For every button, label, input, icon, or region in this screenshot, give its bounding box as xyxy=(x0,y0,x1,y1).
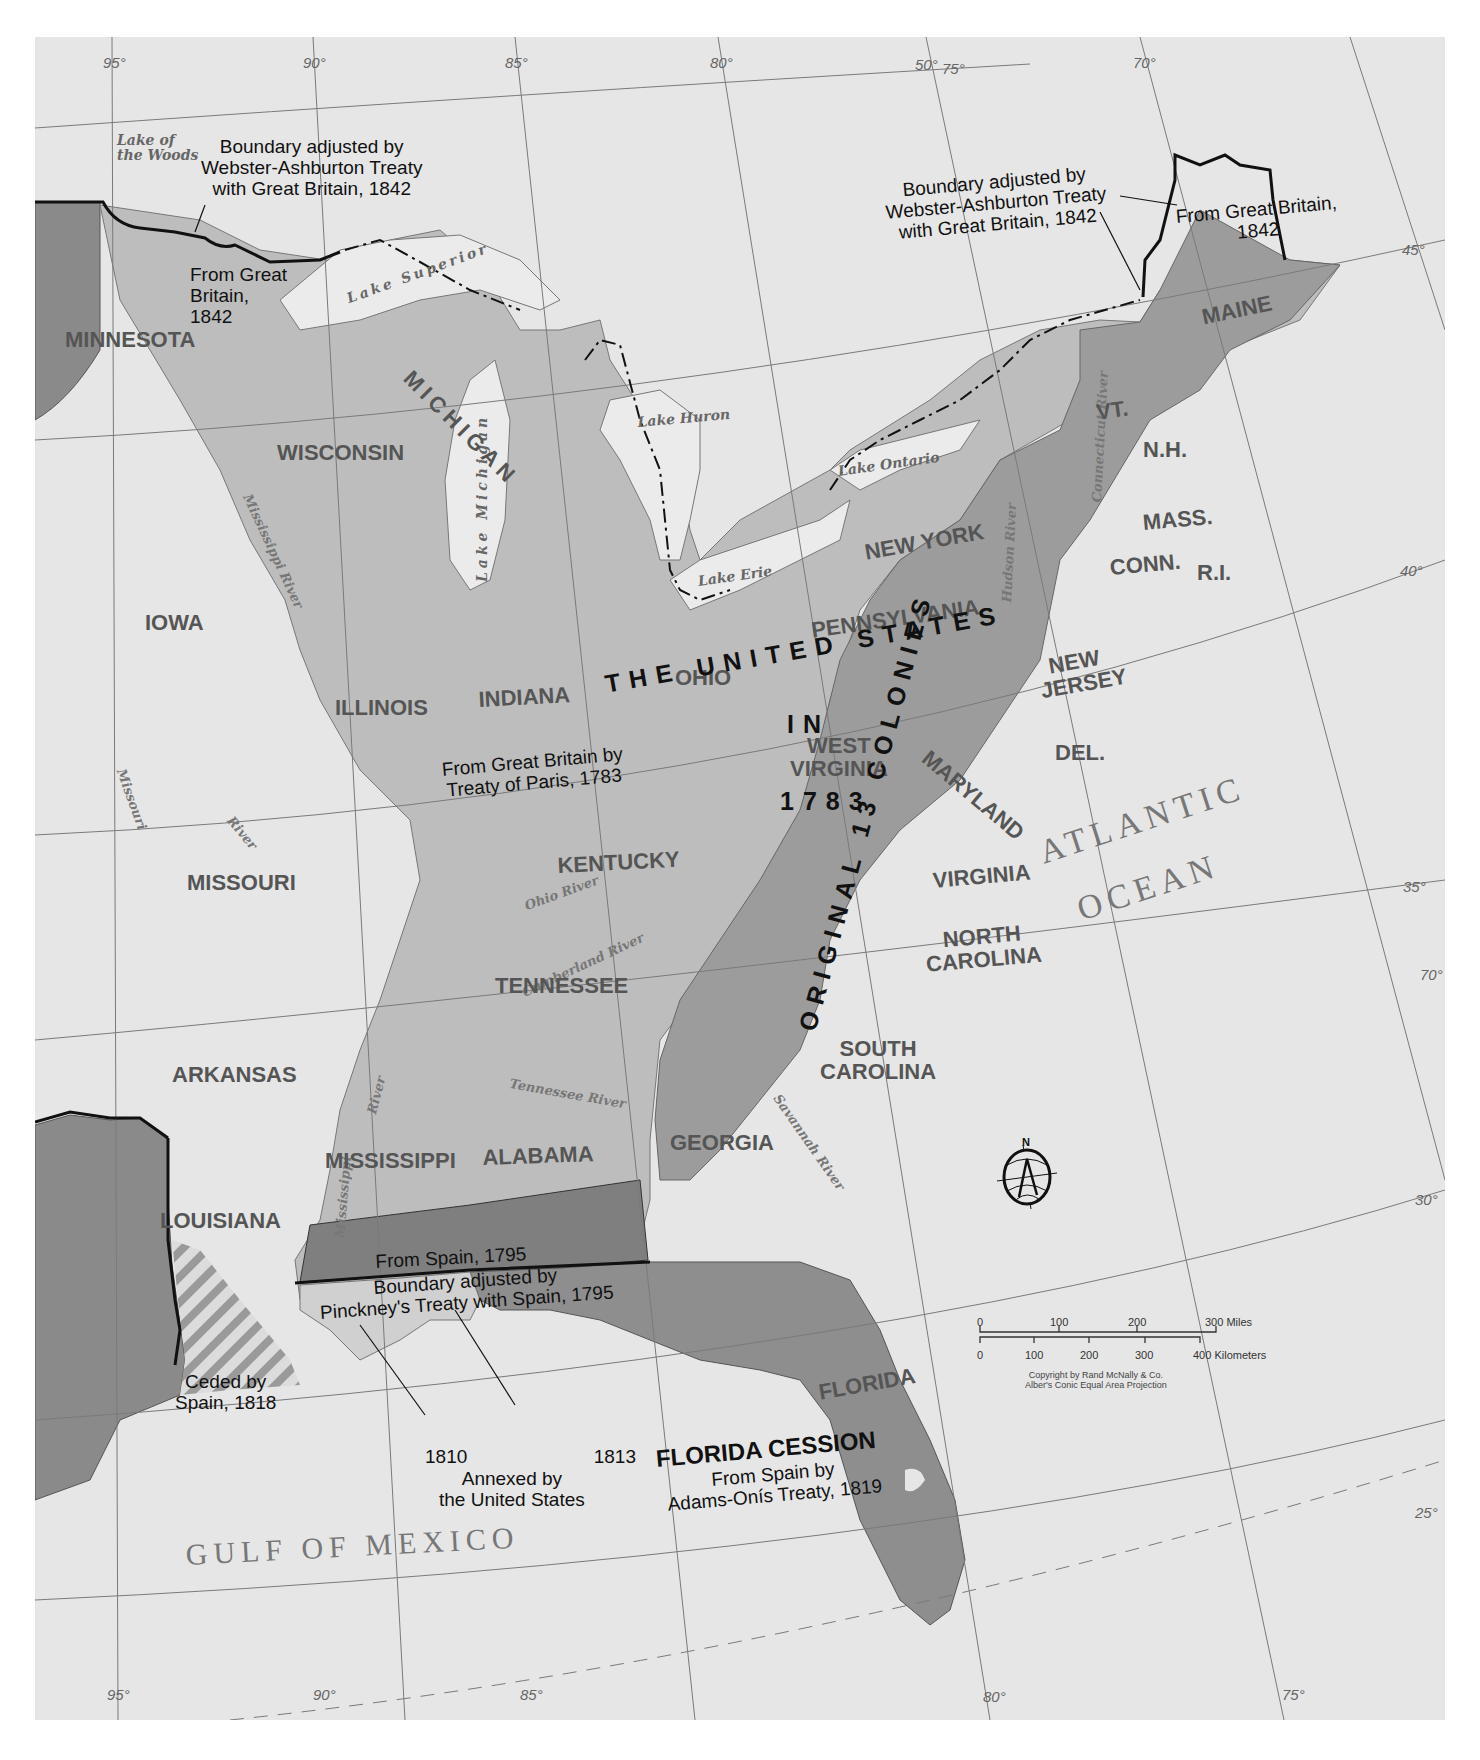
lat-label-45: 45° xyxy=(1402,242,1425,257)
state-label-minnesota: MINNESOTA xyxy=(65,329,195,351)
scale-mi-300: 300 Miles xyxy=(1205,1317,1252,1328)
lake-of-the-woods-label: Lake of the Woods xyxy=(117,133,198,162)
state-label-vermont: VT. xyxy=(1095,398,1130,424)
lon-label-95: 95° xyxy=(103,55,126,70)
scale-km-300: 300 xyxy=(1135,1350,1153,1361)
lon-label-85: 85° xyxy=(505,55,528,70)
scale-km-200: 200 xyxy=(1080,1350,1098,1361)
lat-label-30: 30° xyxy=(1415,1192,1438,1207)
state-label-delaware: DEL. xyxy=(1055,742,1105,764)
scale-km-0: 0 xyxy=(977,1350,983,1361)
note-annexed: Annexed by the United States xyxy=(439,1469,585,1511)
scale-mi-200: 200 xyxy=(1128,1317,1146,1328)
note-ceded-1818: Ceded by Spain, 1818 xyxy=(175,1372,276,1414)
state-label-wisconsin: WISCONSIN xyxy=(277,442,404,464)
headline-in: IN xyxy=(787,712,830,737)
note-from-gb-1842-west: From Great Britain, 1842 xyxy=(190,265,287,328)
scale-mi-0: 0 xyxy=(977,1317,983,1328)
lon-label-90-bottom: 90° xyxy=(313,1687,336,1702)
state-label-connecticut: CONN. xyxy=(1109,551,1182,579)
map-frame: 95° 90° 85° 80° 50° 75° 70° 45° 40° 35° … xyxy=(35,37,1445,1720)
lon-label-75: 75° xyxy=(942,61,965,76)
state-label-new-hampshire: N.H. xyxy=(1143,439,1187,461)
lon-label-70-east: 70° xyxy=(1420,967,1443,982)
state-label-georgia: GEORGIA xyxy=(670,1132,774,1154)
lon-label-95-bottom: 95° xyxy=(107,1687,130,1702)
state-label-arkansas: ARKANSAS xyxy=(172,1064,297,1086)
state-label-alabama: ALABAMA xyxy=(482,1143,594,1169)
state-label-indiana: INDIANA xyxy=(478,684,571,711)
state-label-iowa: IOWA xyxy=(145,612,204,634)
state-label-mississippi: MISSISSIPPI xyxy=(325,1150,456,1172)
state-label-missouri: MISSOURI xyxy=(187,872,296,894)
lon-label-90: 90° xyxy=(303,55,326,70)
lat-label-50: 50° xyxy=(915,57,938,72)
scale-mi-100: 100 xyxy=(1050,1317,1068,1328)
scale-km-400: 400 Kilometers xyxy=(1193,1350,1266,1361)
compass-north-label: N xyxy=(1022,1137,1030,1148)
lon-label-80-bottom: 80° xyxy=(983,1689,1006,1704)
lon-label-70: 70° xyxy=(1133,55,1156,70)
note-webster-west: Boundary adjusted by Webster-Ashburton T… xyxy=(201,137,422,200)
lon-label-75-bottom: 75° xyxy=(1282,1687,1305,1702)
state-label-south-carolina: SOUTH CAROLINA xyxy=(820,1037,936,1083)
lon-label-80: 80° xyxy=(710,55,733,70)
scale-km-100: 100 xyxy=(1025,1350,1043,1361)
state-label-illinois: ILLINOIS xyxy=(335,697,428,719)
lon-label-85-bottom: 85° xyxy=(520,1687,543,1702)
lat-label-25: 25° xyxy=(1415,1505,1438,1520)
lat-label-40: 40° xyxy=(1400,563,1423,578)
state-label-rhode-island: R.I. xyxy=(1197,562,1231,584)
lat-label-35: 35° xyxy=(1403,879,1426,894)
state-label-tennessee: TENNESSEE xyxy=(495,975,628,997)
map-credits: Copyright by Rand McNally & Co. Alber's … xyxy=(1025,1370,1167,1391)
state-label-north-carolina: NORTH CAROLINA xyxy=(923,920,1043,976)
state-label-louisiana: LOUISIANA xyxy=(160,1210,281,1232)
note-annexed-years: 1810 1813 xyxy=(425,1447,636,1468)
state-label-massachusetts: MASS. xyxy=(1142,506,1213,534)
